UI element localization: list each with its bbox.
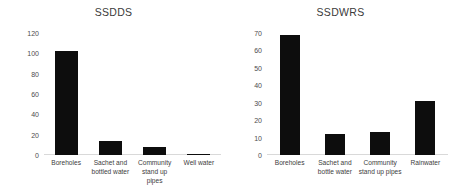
x-axis-category-label: Community stand up pipes — [133, 158, 177, 185]
x-axis-category-label: Well water — [177, 158, 221, 185]
y-axis-tick-label: 60 — [31, 91, 39, 98]
x-axis-labels-ssdds: BoreholesSachet and bottled waterCommuni… — [44, 158, 221, 185]
bar-slot — [267, 33, 312, 155]
y-axis-tick-label: 20 — [254, 117, 262, 124]
bar-slot — [133, 33, 177, 155]
plot-area-ssdwrs: 010203040506070 — [267, 33, 448, 155]
chart-title-ssdds: SSDDS — [0, 6, 227, 18]
bar — [187, 154, 210, 155]
y-axis-tick-label: 30 — [254, 99, 262, 106]
y-axis-tick-label: 50 — [254, 64, 262, 71]
chart-panel-ssdwrs: SSDWRS 010203040506070 BoreholesSachet a… — [227, 0, 454, 188]
chart-panel-ssdds: SSDDS 020406080100120 BoreholesSachet an… — [0, 0, 227, 188]
y-axis-tick-label: 70 — [254, 30, 262, 37]
y-axis-tick-label: 80 — [31, 70, 39, 77]
bar-slot — [44, 33, 88, 155]
bar-slot — [312, 33, 357, 155]
bar — [370, 132, 390, 155]
bar — [55, 51, 78, 155]
bar-slot — [177, 33, 221, 155]
bar — [143, 147, 166, 155]
x-axis-category-label: Rainwater — [403, 158, 448, 176]
bar-slot — [403, 33, 448, 155]
y-axis-tick-label: 40 — [254, 82, 262, 89]
y-axis-tick-label: 40 — [31, 111, 39, 118]
bar-group-ssdds — [44, 33, 221, 155]
bar-group-ssdwrs — [267, 33, 448, 155]
bar — [325, 134, 345, 155]
y-axis-tick-label: 10 — [254, 134, 262, 141]
y-axis-tick-label: 20 — [31, 131, 39, 138]
bar — [280, 35, 300, 155]
bar-slot — [358, 33, 403, 155]
bar — [99, 141, 122, 155]
x-axis-category-label: Boreholes — [267, 158, 312, 176]
x-axis-category-label: Sachet and bottled water — [88, 158, 132, 185]
y-axis-tick-label: 60 — [254, 47, 262, 54]
plot-area-ssdds: 020406080100120 — [44, 33, 221, 155]
y-axis-tick-label: 0 — [258, 152, 262, 159]
x-axis-category-label: Sachet and bottle water — [312, 158, 357, 176]
x-axis-labels-ssdwrs: BoreholesSachet and bottle waterCommunit… — [267, 158, 448, 176]
bar-slot — [88, 33, 132, 155]
x-axis-category-label: Boreholes — [44, 158, 88, 185]
figure-two-bar-charts: SSDDS 020406080100120 BoreholesSachet an… — [0, 0, 454, 188]
y-axis-tick-label: 100 — [27, 50, 39, 57]
y-axis-tick-label: 0 — [35, 152, 39, 159]
bar — [415, 101, 435, 155]
y-axis-tick-label: 120 — [27, 30, 39, 37]
chart-title-ssdwrs: SSDWRS — [227, 6, 454, 18]
x-axis-category-label: Community stand up pipes — [358, 158, 403, 176]
